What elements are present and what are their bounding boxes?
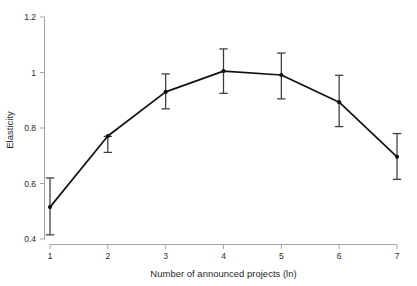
- x-tick-label-5: 6: [337, 251, 342, 261]
- data-point-marker: [337, 100, 341, 104]
- data-point-marker: [279, 73, 283, 77]
- x-axis-title: Number of announced projects (ln): [150, 268, 296, 279]
- data-point-marker: [106, 134, 110, 138]
- y-tick-label-4: 1.2: [24, 12, 36, 22]
- x-tick-label-1: 2: [105, 251, 110, 261]
- y-tick-label-1: 0.6: [24, 179, 36, 189]
- x-tick-label-4: 5: [279, 251, 284, 261]
- chart-canvas: 0.4 0.6 0.8 1 1.2 1 2 3 4 5 6 7 Number o…: [0, 0, 417, 286]
- y-tick-label-3: 1: [31, 68, 36, 78]
- x-tick-label-0: 1: [48, 251, 53, 261]
- x-tick-label-3: 4: [221, 251, 226, 261]
- data-point-marker: [221, 69, 225, 73]
- chart-figure: 0.4 0.6 0.8 1 1.2 1 2 3 4 5 6 7 Number o…: [0, 0, 417, 286]
- y-tick-label-0: 0.4: [24, 234, 36, 244]
- data-point-marker: [48, 205, 52, 209]
- x-tick-label-2: 3: [163, 251, 168, 261]
- y-axis-title: Elasticity: [4, 111, 15, 149]
- data-point-marker: [164, 90, 168, 94]
- chart-background: [0, 0, 417, 286]
- data-point-marker: [395, 155, 399, 159]
- y-tick-label-2: 0.8: [24, 123, 36, 133]
- x-tick-label-6: 7: [395, 251, 400, 261]
